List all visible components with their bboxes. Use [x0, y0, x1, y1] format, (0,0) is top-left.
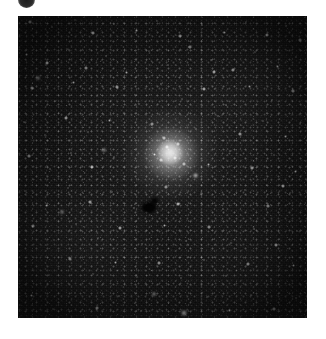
plate-background [18, 16, 307, 318]
page-root [0, 0, 326, 339]
filled-circle-icon [18, 0, 35, 8]
globular-cluster-plate [18, 16, 307, 318]
